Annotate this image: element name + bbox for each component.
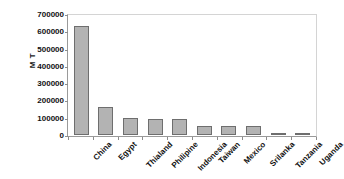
y-axis-tick-mark [65, 15, 68, 16]
y-axis-tick-mark [65, 50, 68, 51]
y-axis-tick-labels: 7000006000005000004000003000002000001000… [22, 14, 64, 137]
y-axis-tick-label: 0 [22, 132, 64, 140]
bar [172, 119, 187, 135]
plot-area [67, 14, 317, 137]
bar-slot [118, 16, 143, 135]
y-axis-tick-label: 600000 [22, 28, 64, 36]
bar-slot [241, 16, 266, 135]
bar-series [69, 16, 315, 135]
bar [271, 133, 286, 135]
y-axis-tick-label: 200000 [22, 97, 64, 105]
y-axis-tick-label: 300000 [22, 80, 64, 88]
y-axis-tick-mark [65, 67, 68, 68]
bar-slot [94, 16, 119, 135]
y-axis-tick-mark [65, 84, 68, 85]
y-axis-tick-label: 100000 [22, 115, 64, 123]
y-axis-tick-mark [65, 101, 68, 102]
bar-slot [143, 16, 168, 135]
y-axis-tick-label: 400000 [22, 63, 64, 71]
x-axis-category-label: Tanzania [294, 140, 324, 170]
bar [74, 26, 89, 135]
x-axis-category-label: China [92, 140, 114, 162]
x-axis-category-label: Thialand [145, 140, 175, 170]
x-axis-category-label: Srilanka [268, 140, 296, 168]
bar [148, 119, 163, 135]
y-axis-tick-label: 700000 [22, 11, 64, 19]
bar [295, 133, 310, 135]
bar-slot [290, 16, 315, 135]
y-axis-tick-mark [65, 119, 68, 120]
y-axis-tick-label: 500000 [22, 46, 64, 54]
bar [221, 126, 236, 135]
bar-slot [192, 16, 217, 135]
x-axis-category-label: Egypt [117, 140, 139, 162]
bar-slot [69, 16, 94, 135]
bar [246, 126, 261, 135]
bar [123, 118, 138, 135]
bar [197, 126, 212, 135]
bar-slot [167, 16, 192, 135]
bar-slot [217, 16, 242, 135]
x-axis-category-labels: ChinaEgyptThialandPhilipineIndonesiaTaiw… [67, 140, 317, 179]
y-axis-tick-mark [65, 32, 68, 33]
bar-slot [266, 16, 291, 135]
bar [98, 107, 113, 135]
x-axis-category-label: Mexico [242, 140, 268, 166]
